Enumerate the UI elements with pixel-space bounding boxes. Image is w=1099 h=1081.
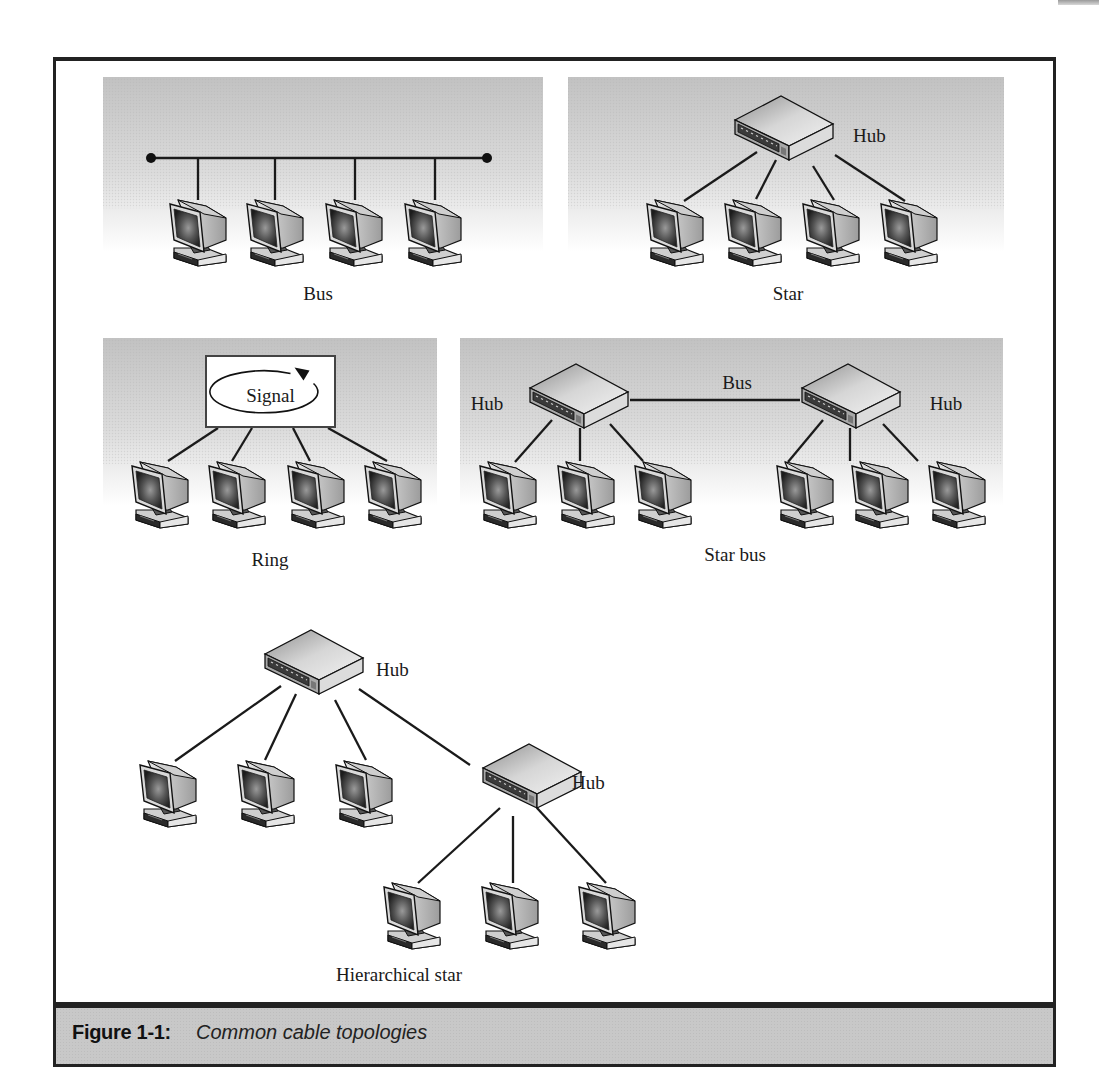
hub-label: Hub — [930, 393, 963, 414]
computer-icon — [579, 883, 635, 949]
figure-number: Figure 1-1: — [72, 1021, 171, 1044]
star-label: Star — [773, 283, 804, 304]
hierarchical-link-cable — [359, 689, 470, 765]
figure-caption: Figure 1-1: Common cable topologies — [53, 1002, 1056, 1067]
hierarchical-link-cable — [175, 686, 281, 761]
bus-terminator-icon — [482, 153, 492, 163]
hierarchical-link-cable — [265, 694, 296, 760]
hub-label: Hub — [376, 659, 409, 680]
topology-diagram: BusHubStarSignalRingHubHubBusStar busHub… — [0, 0, 1099, 1081]
computer-icon — [336, 761, 392, 827]
computer-icon — [140, 761, 196, 827]
network-devices — [132, 96, 985, 949]
star-bus-label: Star bus — [704, 544, 766, 565]
hub-icon — [265, 630, 363, 694]
figure-title: Common cable topologies — [196, 1021, 427, 1044]
computer-icon — [384, 883, 440, 949]
hierarchical-link-cable — [537, 808, 606, 883]
backdrop-texture-bus — [103, 77, 543, 208]
bus-terminator-icon — [146, 153, 156, 163]
hub-label: Hub — [853, 125, 886, 146]
hub-icon — [483, 744, 581, 808]
hub-label: Hub — [471, 393, 504, 414]
bus-label: Bus — [303, 283, 333, 304]
hierarchical-link-cable — [335, 700, 366, 760]
bus-segment-label: Bus — [722, 372, 752, 393]
hierarchical-link-cable — [418, 808, 500, 883]
hierarchical-star-label: Hierarchical star — [336, 964, 463, 985]
computer-icon — [238, 761, 294, 827]
hub-label: Hub — [572, 772, 605, 793]
ring-label: Ring — [252, 549, 289, 570]
computer-icon — [482, 883, 538, 949]
signal-label: Signal — [246, 385, 295, 406]
